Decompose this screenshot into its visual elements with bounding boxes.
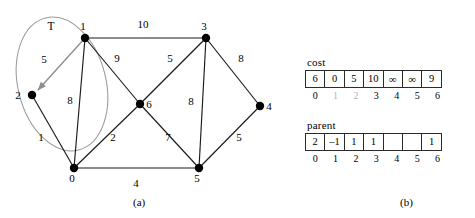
- parent-array-row: 2 –1 1 1 1: [305, 133, 442, 151]
- edge-4-5: [199, 106, 260, 168]
- set-t-label: T: [47, 20, 54, 32]
- parent-cell-5: [403, 134, 422, 150]
- cost-index-2: 2: [346, 89, 366, 102]
- weight-1-3: 10: [138, 18, 150, 30]
- node-label-1: 1: [80, 20, 86, 32]
- parent-cell-0: 2: [306, 134, 325, 150]
- edge-3-4: [206, 38, 260, 106]
- node-4: [256, 102, 264, 110]
- cost-array-title: cost: [307, 56, 448, 68]
- weight-3-5: 8: [188, 95, 194, 107]
- node-label-6: 6: [146, 98, 152, 110]
- graph-panel-a: 0 1 2 3 4 5 6 10 9 8 5 1 5 8 8 2 7 5 4 T: [0, 0, 285, 218]
- parent-index-2: 2: [346, 152, 366, 165]
- cost-cell-1: 0: [325, 71, 344, 87]
- edge-3-5: [199, 38, 206, 168]
- cost-index-5: 5: [407, 89, 427, 102]
- parent-cell-6: 1: [422, 134, 440, 150]
- parent-array-title: parent: [307, 119, 448, 131]
- cost-index-3: 3: [366, 89, 386, 102]
- edge-6-0: [74, 104, 140, 168]
- node-1: [81, 34, 89, 42]
- parent-cell-2: 1: [345, 134, 364, 150]
- weight-3-4: 8: [238, 52, 244, 64]
- caption-panel-b: (b): [400, 196, 413, 208]
- parent-cell-4: [384, 134, 403, 150]
- caption-panel-a: (a): [133, 196, 145, 208]
- weight-3-6: 5: [167, 52, 173, 64]
- figure-container: 0 1 2 3 4 5 6 10 9 8 5 1 5 8 8 2 7 5 4 T…: [0, 0, 475, 218]
- parent-index-0: 0: [305, 152, 325, 165]
- weight-1-6: 9: [114, 52, 120, 64]
- node-0: [70, 164, 78, 172]
- graph-node-labels: 0 1 2 3 4 5 6: [15, 20, 272, 184]
- node-2: [28, 91, 36, 99]
- set-t-ellipse: [3, 7, 121, 160]
- node-label-3: 3: [201, 20, 207, 32]
- cost-cell-4: ∞: [384, 71, 403, 87]
- parent-index-6: 6: [427, 152, 447, 165]
- weight-6-5: 7: [165, 131, 171, 143]
- node-5: [195, 164, 203, 172]
- parent-cell-3: 1: [364, 134, 383, 150]
- cost-cell-0: 6: [306, 71, 325, 87]
- cost-cell-6: 9: [422, 71, 440, 87]
- parent-index-5: 5: [407, 152, 427, 165]
- cost-cell-2: 5: [345, 71, 364, 87]
- parent-array-block: parent 2 –1 1 1 1 0 1 2 3 4 5 6: [305, 119, 448, 165]
- parent-cell-1: –1: [325, 134, 344, 150]
- edge-3-6: [140, 38, 206, 104]
- cost-cell-3: 10: [364, 71, 383, 87]
- weight-6-0: 2: [110, 131, 116, 143]
- weight-1-2: 5: [41, 53, 47, 65]
- weight-0-5: 4: [133, 177, 139, 189]
- cost-index-1: 1: [325, 89, 345, 102]
- weight-2-0: 1: [38, 131, 44, 143]
- node-label-5: 5: [194, 172, 200, 184]
- cost-array-block: cost 6 0 5 10 ∞ ∞ 9 0 1 2 3 4 5 6: [305, 56, 448, 102]
- cost-cell-5: ∞: [403, 71, 422, 87]
- cost-index-6: 6: [427, 89, 447, 102]
- edge-1-6: [85, 38, 140, 104]
- node-label-2: 2: [15, 89, 21, 101]
- node-3: [202, 34, 210, 42]
- weight-4-5: 5: [236, 131, 242, 143]
- parent-index-1: 1: [325, 152, 345, 165]
- node-label-4: 4: [266, 100, 272, 112]
- cost-index-4: 4: [387, 89, 407, 102]
- node-label-0: 0: [69, 172, 75, 184]
- node-6: [136, 100, 144, 108]
- cost-index-row: 0 1 2 3 4 5 6: [305, 89, 448, 102]
- cost-index-0: 0: [305, 89, 325, 102]
- parent-index-3: 3: [366, 152, 386, 165]
- cost-array-row: 6 0 5 10 ∞ ∞ 9: [305, 70, 442, 88]
- parent-index-row: 0 1 2 3 4 5 6: [305, 152, 448, 165]
- weight-1-0: 8: [67, 94, 73, 106]
- parent-index-4: 4: [387, 152, 407, 165]
